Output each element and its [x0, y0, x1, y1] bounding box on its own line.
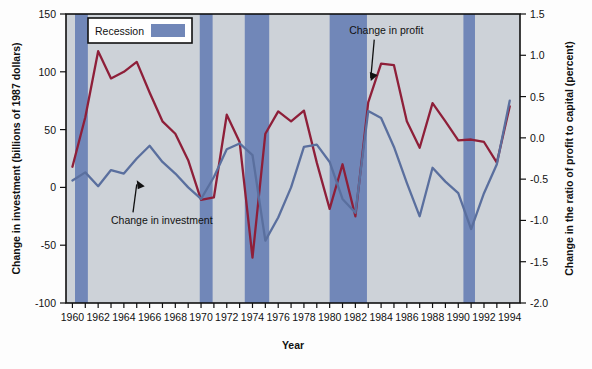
y-right-tick-label-1: 1.0 [530, 49, 545, 61]
y-right-tick-label--0.5: -0.5 [530, 173, 548, 185]
recession-band-1 [200, 14, 213, 303]
x-tick-label-1982: 1982 [344, 311, 368, 323]
x-tick-label-1990: 1990 [447, 311, 471, 323]
y-right-tick-label--1: -1.0 [530, 214, 548, 226]
annotation-change-in-profit: Change in profit [349, 24, 423, 36]
y-right-tick-label--1.5: -1.5 [530, 256, 548, 268]
x-tick-label-1978: 1978 [292, 311, 316, 323]
x-tick-label-1972: 1972 [215, 311, 239, 323]
legend-swatch-recession [151, 24, 185, 37]
y-axis-left-title: Change in investment (billions of 1987 d… [10, 42, 22, 274]
recession-band-2 [245, 14, 269, 303]
annotation-change-in-investment: Change in investment [111, 214, 213, 226]
y-left-tick-label-50: 50 [44, 124, 56, 136]
x-tick-label-1974: 1974 [241, 311, 265, 323]
x-tick-label-1964: 1964 [112, 311, 136, 323]
chart-svg: 1960196219641966196819701972197419761978… [0, 0, 592, 369]
x-tick-label-1994: 1994 [498, 311, 522, 323]
y-axis-right-title: Change in the ratio of profit to capital… [563, 41, 575, 276]
x-tick-label-1992: 1992 [472, 311, 496, 323]
y-left-tick-label-150: 150 [38, 8, 56, 20]
x-tick-label-1988: 1988 [421, 311, 445, 323]
recession-band-0 [75, 14, 88, 303]
x-tick-label-1970: 1970 [189, 311, 213, 323]
chart-figure: 1960196219641966196819701972197419761978… [0, 0, 592, 369]
y-right-tick-label--2: -2.0 [530, 297, 548, 309]
x-tick-label-1980: 1980 [318, 311, 342, 323]
x-tick-label-1966: 1966 [138, 311, 162, 323]
x-axis-title: Year [282, 339, 304, 351]
y-left-tick-label--50: -50 [41, 239, 56, 251]
recession-band-4 [463, 14, 475, 303]
x-tick-label-1976: 1976 [267, 311, 291, 323]
legend-label-recession: Recession [95, 25, 144, 37]
y-left-tick-label-100: 100 [38, 66, 56, 78]
plot-background [66, 14, 520, 303]
y-left-tick-label-0: 0 [50, 181, 56, 193]
x-tick-label-1960: 1960 [61, 311, 85, 323]
y-right-tick-label-1.5: 1.5 [530, 8, 545, 20]
y-left-tick-label--100: -100 [35, 297, 56, 309]
x-tick-label-1986: 1986 [395, 311, 419, 323]
x-tick-label-1984: 1984 [369, 311, 393, 323]
y-right-tick-label-0: 0.0 [530, 132, 545, 144]
y-right-tick-label-0.5: 0.5 [530, 91, 545, 103]
x-tick-label-1968: 1968 [164, 311, 188, 323]
x-tick-label-1962: 1962 [86, 311, 110, 323]
